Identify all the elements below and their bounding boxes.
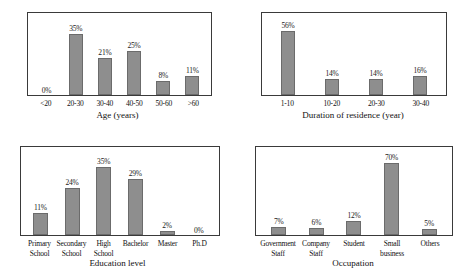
bar-group: 8% bbox=[149, 13, 178, 95]
x-tick-label: 30-40 bbox=[90, 99, 120, 109]
chart-panel-education-level: 11% 24% 35% 29% 2% bbox=[0, 138, 235, 277]
bar-group: 0% bbox=[32, 13, 61, 95]
bar bbox=[96, 167, 111, 235]
bar-value-label: 12% bbox=[347, 211, 360, 220]
x-axis-ticks-age: <20 20-30 30-40 40-50 50-60 >60 bbox=[27, 99, 212, 109]
x-tick-label: 30-40 bbox=[399, 99, 444, 109]
plot-frame-education-level: 11% 24% 35% 29% 2% bbox=[20, 146, 220, 236]
bar-group: 25% bbox=[120, 13, 149, 95]
bars-duration-of-residence: 56% 14% 14% 16% bbox=[262, 13, 446, 95]
x-tick-label: 20-30 bbox=[61, 99, 91, 109]
bar-value-label: 29% bbox=[129, 169, 142, 178]
bar-group: 11% bbox=[178, 13, 207, 95]
bars-occupation: 7% 6% 12% 70% 5% bbox=[256, 147, 452, 235]
bar-group: 11% bbox=[25, 147, 57, 235]
bar-group: 6% bbox=[298, 147, 336, 235]
plot-frame-occupation: 7% 6% 12% 70% 5% bbox=[255, 146, 453, 236]
chart-panel-age: 0% 35% 21% 25% 8% bbox=[0, 0, 235, 138]
x-tick-label: Company Staff bbox=[297, 239, 335, 258]
bar-group: 21% bbox=[90, 13, 119, 95]
bar-value-label: 35% bbox=[69, 24, 82, 33]
x-tick-label: Small business bbox=[373, 239, 411, 258]
bar-group: 14% bbox=[310, 13, 354, 95]
bar bbox=[309, 228, 324, 235]
bar bbox=[346, 221, 361, 235]
bar-group: 14% bbox=[354, 13, 398, 95]
x-axis-ticks-education-level: Primary School Secondary School High Sch… bbox=[20, 239, 220, 258]
plot-frame-age: 0% 35% 21% 25% 8% bbox=[27, 12, 212, 96]
bar bbox=[156, 81, 170, 95]
x-tick-label: Primary School bbox=[24, 239, 56, 258]
plot-frame-duration-of-residence: 56% 14% 14% 16% bbox=[261, 12, 447, 96]
bar bbox=[369, 79, 383, 95]
x-axis-ticks-occupation: Government Staff Company Staff Student S… bbox=[255, 239, 453, 258]
bar-value-label: 8% bbox=[158, 71, 168, 80]
bar-group: 35% bbox=[61, 13, 90, 95]
bar-group: 56% bbox=[266, 13, 310, 95]
bar bbox=[160, 231, 175, 235]
bar-value-label: 7% bbox=[274, 217, 284, 226]
bar-value-label: 24% bbox=[65, 178, 78, 187]
bar-value-label: 11% bbox=[34, 203, 47, 212]
bar-group: 7% bbox=[260, 147, 298, 235]
bar-value-label: 70% bbox=[385, 153, 398, 162]
x-axis-title-education-level: Education level bbox=[89, 258, 145, 269]
bar bbox=[33, 213, 48, 235]
x-axis-title-occupation: Occupation bbox=[332, 258, 373, 269]
x-tick-label: Others bbox=[411, 239, 449, 258]
x-tick-label: 1-10 bbox=[265, 99, 310, 109]
x-tick-label: Government Staff bbox=[259, 239, 297, 258]
bar bbox=[384, 163, 399, 235]
bar-value-label: 5% bbox=[424, 219, 434, 228]
bar-value-label: 21% bbox=[98, 48, 111, 57]
bar-value-label: 14% bbox=[369, 69, 382, 78]
bar-group: 24% bbox=[56, 147, 88, 235]
bar bbox=[69, 34, 83, 95]
bar bbox=[65, 188, 80, 235]
bar bbox=[127, 51, 141, 95]
bar-group: 0% bbox=[183, 147, 215, 235]
figure-panel-grid: 0% 35% 21% 25% 8% bbox=[0, 0, 471, 277]
bar bbox=[325, 79, 339, 95]
bar-value-label: 0% bbox=[194, 226, 204, 235]
bar-group: 5% bbox=[410, 147, 448, 235]
x-tick-label: Master bbox=[152, 239, 184, 258]
bar bbox=[98, 58, 112, 95]
x-tick-label: 10-20 bbox=[310, 99, 355, 109]
x-tick-label: High School bbox=[88, 239, 120, 258]
bar bbox=[413, 76, 427, 95]
x-tick-label: 40-50 bbox=[120, 99, 150, 109]
bar-group: 70% bbox=[373, 147, 411, 235]
bar bbox=[281, 31, 295, 95]
bar-value-label: 25% bbox=[128, 41, 141, 50]
bars-age: 0% 35% 21% 25% 8% bbox=[28, 13, 211, 95]
bar-value-label: 2% bbox=[162, 221, 172, 230]
bar bbox=[271, 227, 286, 235]
bars-education-level: 11% 24% 35% 29% 2% bbox=[21, 147, 219, 235]
bar-value-label: 16% bbox=[413, 66, 426, 75]
bar-group: 12% bbox=[335, 147, 373, 235]
bar bbox=[185, 76, 199, 95]
x-tick-label: Secondary School bbox=[56, 239, 88, 258]
x-tick-label: Student bbox=[335, 239, 373, 258]
bar-value-label: 6% bbox=[312, 218, 322, 227]
bar-value-label: 56% bbox=[281, 21, 294, 30]
bar bbox=[422, 229, 437, 235]
chart-panel-occupation: 7% 6% 12% 70% 5% bbox=[235, 138, 471, 277]
x-axis-ticks-duration-of-residence: 1-10 10-20 20-30 30-40 bbox=[261, 99, 447, 109]
x-tick-label: 50-60 bbox=[149, 99, 179, 109]
bar-group: 35% bbox=[88, 147, 120, 235]
bar bbox=[128, 179, 143, 235]
x-axis-title-duration-of-residence: Duration of residence (year) bbox=[302, 110, 404, 121]
x-axis-title-age: Age (years) bbox=[96, 110, 138, 121]
chart-panel-duration-of-residence: 56% 14% 14% 16% 1-10 10-20 2 bbox=[235, 0, 471, 138]
x-tick-label: 20-30 bbox=[354, 99, 399, 109]
x-tick-label: Bachelor bbox=[120, 239, 152, 258]
bar-value-label: 11% bbox=[186, 66, 199, 75]
bar-group: 16% bbox=[398, 13, 442, 95]
x-tick-label: >60 bbox=[179, 99, 209, 109]
x-tick-label: Ph.D bbox=[184, 239, 216, 258]
x-tick-label: <20 bbox=[31, 99, 61, 109]
bar-value-label: 14% bbox=[325, 69, 338, 78]
bar-group: 2% bbox=[151, 147, 183, 235]
